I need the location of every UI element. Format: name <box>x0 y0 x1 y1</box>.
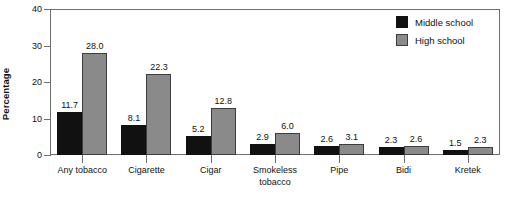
bar-middle-0 <box>57 112 82 155</box>
bar-value-label: 8.1 <box>118 113 150 123</box>
bar-high-4 <box>339 144 364 155</box>
x-axis-tick <box>275 155 276 163</box>
legend-item-high[interactable]: High school <box>396 32 473 48</box>
y-axis-tick <box>44 155 51 156</box>
legend-item-middle[interactable]: Middle school <box>396 14 473 30</box>
bar-high-3 <box>275 133 300 155</box>
x-axis-tick <box>211 155 212 163</box>
bar-chart: Percentage 010203040 Any tobaccoCigarett… <box>0 0 520 201</box>
bar-middle-5 <box>379 147 404 155</box>
bar-value-label: 2.3 <box>464 135 496 145</box>
y-axis-title: Percentage <box>0 44 14 144</box>
bar-value-label: 22.3 <box>143 62 175 72</box>
bar-middle-6 <box>443 150 468 155</box>
y-axis-tick-label: 0 <box>2 150 42 160</box>
y-axis-tick-label: 30 <box>2 41 42 51</box>
bar-high-0 <box>82 53 107 155</box>
bar-middle-4 <box>314 146 339 155</box>
bar-middle-1 <box>121 125 146 155</box>
bar-middle-3 <box>250 144 275 155</box>
bar-value-label: 5.2 <box>182 124 214 134</box>
y-axis-label-wrap: 10 <box>0 114 42 124</box>
bar-value-label: 2.6 <box>400 134 432 144</box>
y-axis-label-wrap: 40 <box>0 4 42 14</box>
x-axis-tick <box>146 155 147 163</box>
y-axis-label-wrap: 0 <box>0 150 42 160</box>
bar-high-5 <box>404 146 429 155</box>
bar-value-label: 12.8 <box>207 96 239 106</box>
x-axis-tick <box>82 155 83 163</box>
x-axis-category-line: Kretek <box>428 165 508 177</box>
bar-value-label: 6.0 <box>272 121 304 131</box>
y-axis-tick-label: 10 <box>2 114 42 124</box>
legend-swatch-icon <box>396 16 408 28</box>
bar-value-label: 28.0 <box>79 41 111 51</box>
legend-label: Middle school <box>415 17 473 28</box>
y-axis-label-wrap: 30 <box>0 41 42 51</box>
x-axis-category-label: Kretek <box>428 165 508 177</box>
bar-high-6 <box>468 147 493 155</box>
y-axis-tick-label: 20 <box>2 77 42 87</box>
x-axis-tick <box>468 155 469 163</box>
bar-value-label: 3.1 <box>336 132 368 142</box>
x-axis-category-line: tobacco <box>235 177 315 189</box>
bar-value-label: 2.9 <box>247 132 279 142</box>
x-axis-tick <box>339 155 340 163</box>
legend-label: High school <box>415 35 465 46</box>
x-axis-tick <box>404 155 405 163</box>
bar-middle-2 <box>186 136 211 155</box>
bar-value-label: 11.7 <box>54 100 86 110</box>
y-axis-label-wrap: 20 <box>0 77 42 87</box>
bar-high-1 <box>146 74 171 155</box>
y-axis-tick-label: 40 <box>2 4 42 14</box>
bar-high-2 <box>211 108 236 155</box>
legend-swatch-icon <box>396 34 408 46</box>
chart-legend: Middle schoolHigh school <box>396 14 473 50</box>
